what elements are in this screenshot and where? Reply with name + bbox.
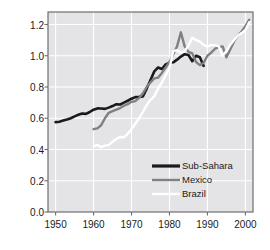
plot-background-group xyxy=(48,12,253,212)
plot-background-rect xyxy=(48,12,253,212)
legend-label-sub-sahara: Sub-Sahara xyxy=(182,160,233,171)
legend-label-brazil: Brazil xyxy=(182,188,206,199)
plot-area xyxy=(0,0,270,250)
legend-label-mexico: Mexico xyxy=(182,174,212,185)
chart-figure: Index, 1990=1 0.00.20.40.60.81.01.2 1950… xyxy=(0,0,270,250)
